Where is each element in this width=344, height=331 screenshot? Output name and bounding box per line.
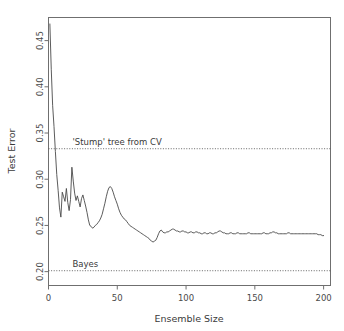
- test-error-line: [50, 24, 324, 242]
- y-tick-label: 0.20: [35, 262, 45, 281]
- y-tick-label: 0.35: [35, 124, 45, 143]
- y-tick-label: 0.25: [35, 216, 45, 235]
- x-tick-label: 0: [46, 293, 51, 303]
- x-tick-label: 50: [112, 293, 123, 303]
- y-axis-ticks: 0.200.250.300.350.400.45: [35, 31, 49, 281]
- y-tick-label: 0.40: [35, 77, 45, 96]
- x-tick-label: 100: [178, 293, 194, 303]
- chart-canvas: 0.200.250.300.350.400.45 050100150200 'S…: [0, 0, 344, 331]
- reference-lines: 'Stump' tree from CVBayes: [49, 137, 331, 271]
- x-tick-label: 150: [247, 293, 263, 303]
- y-axis-title: Test Error: [6, 128, 17, 174]
- x-axis-title: Ensemble Size: [154, 313, 223, 324]
- bayes-reference-label: Bayes: [73, 259, 99, 269]
- chart-figure: 0.200.250.300.350.400.45 050100150200 'S…: [0, 0, 344, 331]
- plot-frame: [49, 18, 331, 286]
- x-axis-ticks: 050100150200: [46, 286, 332, 303]
- stump-reference-label: 'Stump' tree from CV: [73, 137, 162, 147]
- y-tick-label: 0.30: [35, 170, 45, 189]
- y-tick-label: 0.45: [35, 31, 45, 50]
- x-tick-label: 200: [316, 293, 332, 303]
